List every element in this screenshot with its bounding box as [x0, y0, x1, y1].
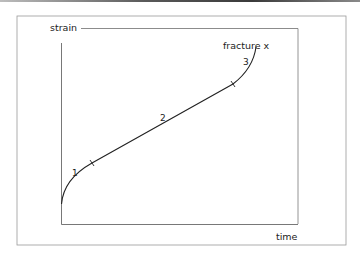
stage-label-1: 1 — [72, 168, 78, 178]
creep-curve — [62, 47, 257, 204]
stage-boundary-tick-2-3 — [231, 81, 235, 87]
outer-frame — [17, 16, 346, 245]
creep-diagram: strain time 1 2 3 fracture x — [0, 0, 360, 260]
x-axis-label: time — [276, 231, 298, 242]
stage-label-2: 2 — [160, 113, 166, 123]
fracture-label: fracture x — [223, 40, 270, 51]
stage-label-3: 3 — [243, 57, 249, 67]
y-axis-label: strain — [50, 22, 77, 33]
stage-boundary-tick-1-2 — [90, 160, 94, 166]
